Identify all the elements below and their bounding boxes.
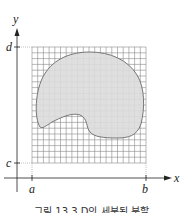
figure: y x d c a b 그림 13.3 D의 세분된 분할 <box>0 0 183 213</box>
y-axis-label: y <box>13 12 18 27</box>
x-axis-label: x <box>174 171 179 186</box>
diagram-canvas <box>0 0 183 213</box>
x-tick-label-a: a <box>29 182 35 197</box>
figure-caption: 그림 13.3 D의 세분된 분할 <box>0 203 183 213</box>
x-tick-label-b: b <box>142 182 148 197</box>
region-d <box>36 52 143 138</box>
y-axis-arrow-icon <box>15 28 20 36</box>
y-tick-label-d: d <box>6 40 12 55</box>
x-axis-arrow-icon <box>164 176 172 181</box>
y-tick-label-c: c <box>6 156 11 171</box>
